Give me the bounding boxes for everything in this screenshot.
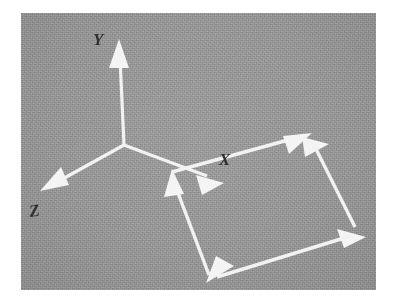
axis-y-line [120, 58, 124, 145]
axis-y [109, 39, 129, 145]
y-axis-arrow-icon [109, 39, 129, 68]
quad-left-arrow-icon [164, 169, 184, 197]
quad-bottom-arrow-icon [206, 256, 234, 283]
axis-label-x: X [218, 150, 231, 169]
axis-label-z: Z [27, 201, 41, 221]
axis-z [40, 145, 124, 191]
figure-root: Y Z X [0, 0, 397, 304]
axis-x-line [124, 145, 207, 176]
quad-edge-bottom [217, 235, 354, 277]
axis-label-y: Y [93, 30, 105, 49]
quad-edge-right [312, 141, 355, 227]
axis-group [40, 39, 224, 195]
label-group: Y Z X [27, 30, 231, 221]
z-axis-arrow-icon [40, 167, 69, 191]
x-axis-arrow-icon [196, 175, 224, 195]
diagram-vector-layer: Y Z X [21, 13, 376, 290]
photo-plate: Y Z X [21, 13, 376, 290]
quadrilateral-group [164, 133, 366, 283]
quad-edge-top [172, 137, 299, 172]
quad-edge-left [175, 185, 209, 275]
axis-z-line [59, 145, 124, 181]
